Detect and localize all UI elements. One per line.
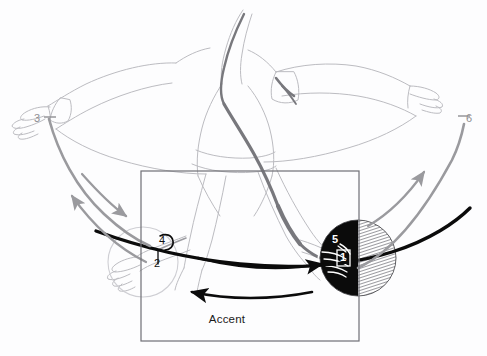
diagram-svg — [0, 0, 487, 356]
left-descent-arrow — [82, 174, 126, 216]
accent-zone-label: Accent — [209, 314, 245, 326]
figure-shading — [158, 14, 318, 257]
return-swing-arrow — [192, 292, 312, 298]
struck-ball — [320, 220, 396, 296]
marker-label-3: 3 — [34, 113, 40, 124]
marker-label-4: 4 — [159, 235, 165, 246]
diagram-canvas: 3 6 4 2 5 1 Accent — [0, 0, 487, 356]
marker-label-2: 2 — [154, 258, 160, 269]
marker-label-6: 6 — [466, 113, 472, 124]
marker-label-1: 1 — [340, 252, 346, 263]
marker-label-5: 5 — [332, 234, 338, 245]
endpoint-ticks — [44, 116, 470, 117]
